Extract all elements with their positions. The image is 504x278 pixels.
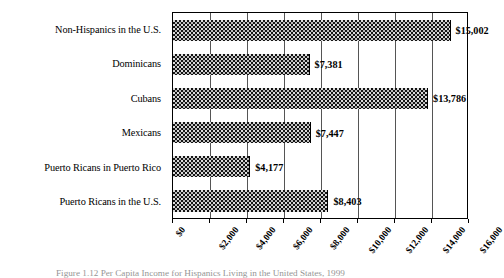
- x-tick-label: $6,000: [291, 225, 315, 251]
- plot-area: $15,002$7,381$13,786$7,447$4,177$8,403: [172, 12, 468, 219]
- bar-slot: $4,177: [173, 150, 467, 184]
- x-tick-label: $0: [174, 225, 188, 239]
- bar-value-label-puerto-ricans-in-puerto-rico: $4,177: [255, 161, 283, 172]
- category-label-puerto-ricans-pr: Puerto Ricans in Puerto Rico: [0, 150, 168, 185]
- bar-slot: $13,786: [173, 81, 467, 115]
- x-tick-label: $8,000: [328, 225, 352, 251]
- x-tick-mark: [394, 219, 395, 223]
- x-tick-mark: [357, 219, 358, 223]
- x-tick-label: $16,000: [478, 225, 504, 255]
- category-axis: Non-Hispanics in the U.S. Dominicans Cub…: [0, 12, 168, 219]
- x-tick-label: $12,000: [404, 225, 431, 255]
- bar-puerto-ricans-in-the-u-s[interactable]: [173, 190, 328, 211]
- category-label-non-hispanics: Non-Hispanics in the U.S.: [0, 12, 168, 47]
- bar-slot: $8,403: [173, 184, 467, 218]
- x-tick-mark: [246, 219, 247, 223]
- bar-value-label-mexicans: $7,447: [316, 127, 344, 138]
- x-tick-mark: [209, 219, 210, 223]
- x-tick-mark: [283, 219, 284, 223]
- x-tick-mark: [172, 219, 173, 223]
- bar-slot: $7,381: [173, 47, 467, 81]
- bar-non-hispanics-in-the-u-s[interactable]: [173, 20, 451, 41]
- x-tick-label: $4,000: [254, 225, 278, 251]
- bar-value-label-dominicans: $7,381: [315, 59, 343, 70]
- x-tick-label: $14,000: [441, 225, 468, 255]
- bar-cubans[interactable]: [173, 88, 428, 109]
- bar-value-label-non-hispanics-in-the-u-s: $15,002: [456, 25, 489, 36]
- x-tick-mark: [431, 219, 432, 223]
- category-label-cubans: Cubans: [0, 81, 168, 116]
- bar-puerto-ricans-in-puerto-rico[interactable]: [173, 156, 250, 177]
- x-tick-mark: [468, 219, 469, 223]
- figure-caption: Figure 1.12 Per Capita Income for Hispan…: [56, 268, 456, 278]
- bars-layer: $15,002$7,381$13,786$7,447$4,177$8,403: [173, 13, 467, 218]
- bar-slot: $15,002: [173, 13, 467, 47]
- category-label-mexicans: Mexicans: [0, 116, 168, 151]
- x-axis: $0$2,000$4,000$6,000$8,000$10,000$12,000…: [172, 219, 468, 261]
- bar-mexicans[interactable]: [173, 122, 311, 143]
- bar-value-label-cubans: $13,786: [433, 93, 466, 104]
- category-label-puerto-ricans-us: Puerto Ricans in the U.S.: [0, 185, 168, 220]
- bar-value-label-puerto-ricans-in-the-u-s: $8,403: [333, 195, 361, 206]
- category-label-dominicans: Dominicans: [0, 47, 168, 82]
- x-tick-mark: [320, 219, 321, 223]
- bar-dominicans[interactable]: [173, 54, 310, 75]
- x-tick-label: $10,000: [367, 225, 394, 255]
- x-tick-label: $2,000: [217, 225, 241, 251]
- bar-slot: $7,447: [173, 116, 467, 150]
